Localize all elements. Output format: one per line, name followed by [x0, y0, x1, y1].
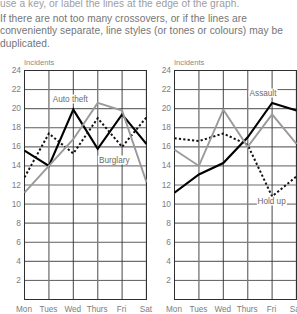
line-chart-left: Incidents 24222018161412108642 Auto thef… [0, 58, 148, 314]
y-axis-tick-label: 8 [16, 218, 21, 228]
x-axis-tick-label: Mon [16, 305, 32, 314]
x-axis-tick-labels: MonTuesWedThursFriSat [24, 303, 146, 314]
y-axis-tick-labels: 24222018161412108642 [150, 70, 171, 299]
plot-area: AssaultHold up [174, 70, 296, 299]
data-series-line [175, 103, 297, 193]
y-axis-tick-label: 18 [12, 122, 21, 132]
x-axis-tick-label: Sat [290, 305, 297, 314]
y-axis-tick-label: 4 [16, 256, 21, 266]
intro-line-4: duplicated. [0, 38, 297, 51]
y-axis-tick-label: 20 [12, 103, 21, 113]
y-axis-tick-label: 6 [166, 237, 171, 247]
y-axis-tick-label: 8 [166, 218, 171, 228]
y-axis-tick-label: 24 [162, 65, 171, 75]
x-axis-tick-label: Tues [39, 305, 57, 314]
x-axis-tick-label: Fri [117, 305, 127, 314]
y-axis-tick-label: 24 [12, 65, 21, 75]
x-axis-tick-label: Wed [214, 305, 231, 314]
y-axis-tick-label: 10 [162, 199, 171, 209]
y-axis-tick-label: 16 [162, 141, 171, 151]
intro-paragraph: use a key, or label the lines at the edg… [0, 0, 297, 50]
x-axis-tick-label: Fri [267, 305, 277, 314]
data-series-line [175, 110, 297, 166]
intro-line-1: use a key, or label the lines at the edg… [0, 0, 297, 11]
y-axis-tick-label: 12 [162, 180, 171, 190]
y-axis-tick-label: 22 [162, 84, 171, 94]
x-axis-tick-label: Thurs [237, 305, 258, 314]
x-axis-tick-label: Mon [166, 305, 182, 314]
y-axis-tick-label: 20 [162, 103, 171, 113]
y-axis-title: Incidents [174, 58, 204, 67]
y-axis-tick-label: 14 [162, 160, 171, 170]
line-chart-right: Incidents 24222018161412108642 AssaultHo… [150, 58, 297, 314]
intro-line-2: If there are not too many crossovers, or… [0, 13, 297, 26]
x-axis-tick-labels: MonTuesWedThursFriSat [174, 303, 296, 314]
y-axis-tick-labels: 24222018161412108642 [0, 70, 21, 299]
x-axis-tick-label: Thurs [87, 305, 108, 314]
data-series-line [25, 103, 147, 193]
series-annotation-label: Hold up [256, 196, 286, 205]
y-axis-tick-label: 12 [12, 180, 21, 190]
y-axis-tick-label: 18 [162, 122, 171, 132]
y-axis-tick-label: 2 [16, 275, 21, 285]
data-series-line [175, 133, 297, 196]
series-annotation-label: Auto theft [52, 94, 89, 103]
plot-area: Auto theftBurglary [24, 70, 146, 299]
intro-line-3: conveniently separate, line styles (or t… [0, 25, 297, 38]
plot-svg [174, 70, 297, 300]
y-axis-tick-label: 22 [12, 84, 21, 94]
y-axis-tick-label: 6 [16, 237, 21, 247]
series-annotation-label: Assault [249, 88, 278, 97]
y-axis-title: Incidents [24, 58, 54, 67]
y-axis-tick-label: 14 [12, 160, 21, 170]
y-axis-tick-label: 2 [166, 275, 171, 285]
plot-svg [24, 70, 147, 300]
y-axis-tick-label: 10 [12, 199, 21, 209]
y-axis-tick-label: 16 [12, 141, 21, 151]
x-axis-tick-label: Wed [64, 305, 81, 314]
x-axis-tick-label: Tues [189, 305, 207, 314]
series-annotation-label: Burglary [98, 155, 131, 164]
y-axis-tick-label: 4 [166, 256, 171, 266]
